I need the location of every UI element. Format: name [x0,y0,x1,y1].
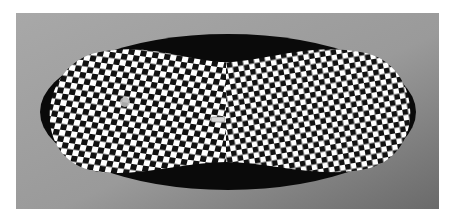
artwork-photo [0,0,453,223]
left-blob [120,97,130,107]
center-mark [211,117,225,122]
artwork-svg [0,0,453,223]
